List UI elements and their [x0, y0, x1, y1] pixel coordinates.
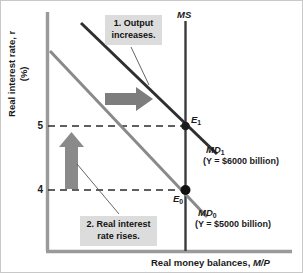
- upward-rate-arrow: [59, 132, 84, 189]
- equilibrium-point-e1: [181, 122, 190, 131]
- md0-income-note: (Y = $5000 billion): [195, 219, 271, 230]
- equilibrium-label-e1-subscript: 1: [197, 119, 201, 126]
- x-axis-title-text: Real money balances,: [151, 257, 250, 268]
- equilibrium-label-e0-subscript: 0: [179, 198, 183, 205]
- callout-rate-rises: 2. Real interest rate rises.: [80, 216, 157, 246]
- md0-curve-label: MD0: [198, 207, 217, 218]
- callout-output-increases: 1. Output increases.: [105, 15, 162, 45]
- md1-curve-label-subscript: 1: [221, 149, 225, 156]
- ms-curve-label: MS: [177, 9, 191, 20]
- money-market-figure: Real interest rate, r (%) Real money bal…: [0, 0, 303, 273]
- equilibrium-label-e1: E1: [191, 114, 201, 125]
- md0-curve-label-text: MD: [198, 207, 213, 218]
- md1-curve-label: MD1: [206, 144, 225, 155]
- y-axis-title-text: Real interest rate, r (%): [6, 31, 29, 117]
- rightward-shift-arrow: [105, 87, 153, 111]
- callout-2-leader: [77, 164, 119, 214]
- md1-curve-label-text: MD: [206, 144, 221, 155]
- md0-curve-label-subscript: 0: [213, 212, 217, 219]
- equilibrium-label-e0: E0: [173, 193, 183, 204]
- y-tick-label-5: 5: [29, 120, 43, 132]
- y-axis-title: Real interest rate, r (%): [6, 26, 30, 122]
- y-tick-label-4: 4: [29, 184, 43, 196]
- md1-income-note: (Y = $6000 billion): [203, 156, 279, 167]
- x-axis-title: Real money balances, M/P: [151, 257, 270, 268]
- x-axis-title-variable: M/P: [253, 257, 270, 268]
